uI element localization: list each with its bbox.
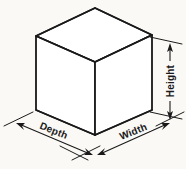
cube-shape bbox=[36, 8, 152, 135]
height-dimension: Height bbox=[150, 37, 182, 120]
height-label: Height bbox=[165, 64, 176, 97]
depth-label: Depth bbox=[38, 120, 69, 141]
height-extension-line-top bbox=[150, 37, 182, 44]
width-extension-line-inner bbox=[60, 146, 88, 160]
cube-diagram-svg: Height Depth bbox=[0, 0, 186, 169]
cube-dimension-figure: Height Depth bbox=[0, 0, 186, 169]
